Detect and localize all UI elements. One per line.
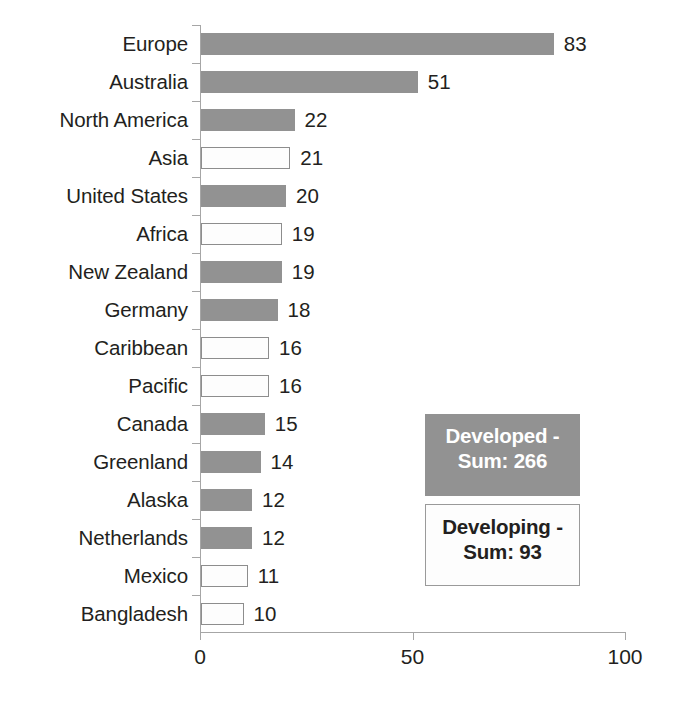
y-axis-tick: [192, 557, 200, 558]
bar-developed: [201, 299, 278, 321]
bar-developed: [201, 109, 295, 131]
bar-value-label: 11: [258, 565, 279, 587]
category-label: Netherlands: [0, 519, 188, 557]
bar-developing: [201, 147, 290, 169]
category-label: Africa: [0, 215, 188, 253]
category-label: Asia: [0, 139, 188, 177]
y-axis-tick: [192, 101, 200, 102]
y-axis-tick: [192, 329, 200, 330]
chart-row: Australia51: [0, 63, 675, 101]
bar-value-label: 15: [275, 413, 298, 435]
bar-developing: [201, 223, 282, 245]
y-axis-tick: [192, 291, 200, 292]
bar-value-label: 16: [279, 337, 302, 359]
legend-developing-line1: Developing -: [426, 514, 579, 539]
bar-value-label: 20: [296, 185, 319, 207]
bar-developing: [201, 337, 269, 359]
x-axis-tick-label: 100: [585, 645, 665, 669]
y-axis-tick: [192, 25, 200, 26]
x-axis-tick: [200, 632, 201, 640]
chart-row: Pacific16: [0, 367, 675, 405]
legend-developed-line2: Sum: 266: [425, 448, 580, 473]
chart-row: North America22: [0, 101, 675, 139]
chart-row: Germany18: [0, 291, 675, 329]
category-label: Germany: [0, 291, 188, 329]
legend-developing-line2: Sum: 93: [426, 539, 579, 564]
bar-developing: [201, 603, 244, 625]
chart-row: Europe83: [0, 25, 675, 63]
chart-row: New Zealand19: [0, 253, 675, 291]
bar-developing: [201, 375, 269, 397]
bar-value-label: 51: [428, 71, 451, 93]
chart-row: Caribbean16: [0, 329, 675, 367]
bar-developed: [201, 33, 554, 55]
legend-developed: Developed - Sum: 266: [425, 414, 580, 496]
bar-developed: [201, 527, 252, 549]
bar-developing: [201, 565, 248, 587]
category-label: Europe: [0, 25, 188, 63]
bar-value-label: 19: [292, 261, 315, 283]
y-axis-tick: [192, 519, 200, 520]
bar-value-label: 19: [292, 223, 315, 245]
category-label: United States: [0, 177, 188, 215]
category-label: Caribbean: [0, 329, 188, 367]
chart-row: Africa19: [0, 215, 675, 253]
y-axis-tick: [192, 177, 200, 178]
category-label: Canada: [0, 405, 188, 443]
bar-value-label: 22: [305, 109, 328, 131]
bar-value-label: 16: [279, 375, 302, 397]
y-axis-tick: [192, 139, 200, 140]
bar-value-label: 83: [564, 33, 587, 55]
chart-row: United States20: [0, 177, 675, 215]
category-label: North America: [0, 101, 188, 139]
bar-developed: [201, 489, 252, 511]
category-label: New Zealand: [0, 253, 188, 291]
y-axis-tick: [192, 481, 200, 482]
category-label: Pacific: [0, 367, 188, 405]
bar-value-label: 12: [262, 527, 285, 549]
y-axis-tick: [192, 215, 200, 216]
category-label: Alaska: [0, 481, 188, 519]
bar-value-label: 14: [271, 451, 294, 473]
x-axis-tick-label: 50: [373, 645, 453, 669]
legend-developing: Developing - Sum: 93: [425, 504, 580, 586]
bar-developed: [201, 413, 265, 435]
y-axis-tick: [192, 595, 200, 596]
bar-developed: [201, 185, 286, 207]
y-axis-tick: [192, 253, 200, 254]
bar-value-label: 10: [254, 603, 277, 625]
x-axis-tick: [625, 632, 626, 640]
chart-row: Bangladesh10: [0, 595, 675, 633]
legend-developed-line1: Developed -: [425, 423, 580, 448]
category-label: Australia: [0, 63, 188, 101]
bar-value-label: 18: [288, 299, 311, 321]
category-label: Mexico: [0, 557, 188, 595]
chart-row: Asia21: [0, 139, 675, 177]
bar-value-label: 21: [300, 147, 323, 169]
bar-developed: [201, 451, 261, 473]
x-axis-tick: [413, 632, 414, 640]
y-axis-tick: [192, 367, 200, 368]
bar-developed: [201, 261, 282, 283]
x-axis-tick-label: 0: [160, 645, 240, 669]
y-axis-tick: [192, 63, 200, 64]
bar-chart: Europe83Australia51North America22Asia21…: [0, 0, 675, 705]
category-label: Greenland: [0, 443, 188, 481]
y-axis-tick: [192, 443, 200, 444]
y-axis-tick: [192, 405, 200, 406]
bar-value-label: 12: [262, 489, 285, 511]
category-label: Bangladesh: [0, 595, 188, 633]
bar-developed: [201, 71, 418, 93]
